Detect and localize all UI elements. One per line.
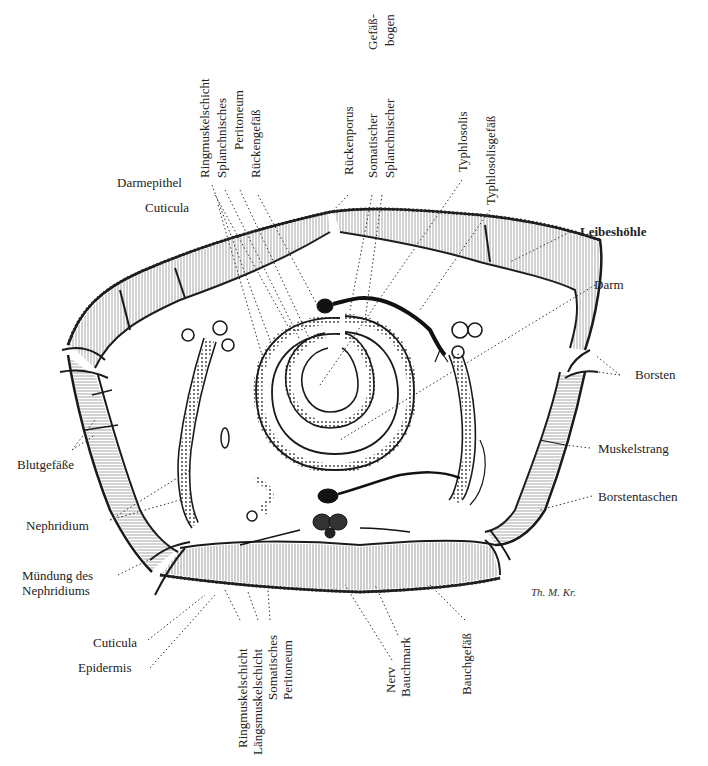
label-ringmuskelschicht-bottom: Ringmuskelschicht: [236, 648, 250, 748]
nephridia-right: [449, 322, 485, 505]
label-rueckenporus: Rückenporus: [342, 106, 356, 175]
label-typhlosolis: Typhlosolis: [456, 112, 470, 173]
artist-signature: Th. M. Kr.: [531, 586, 576, 598]
label-rueckengefaess: Rückengefäß: [249, 109, 263, 178]
label-somatischer: Somatischer: [366, 114, 380, 178]
label-bauchgefaess: Bauchgefäß: [460, 633, 474, 695]
earthworm-cross-section-figure: Ringmuskelschicht Splanchnisches Periton…: [0, 0, 708, 766]
label-borsten: Borsten: [635, 368, 675, 382]
label-muskelstrang: Muskelstrang: [598, 442, 669, 456]
label-darmepithel: Darmepithel: [117, 176, 182, 190]
label-laengsmuskelschicht: Längsmuskelschicht: [251, 649, 265, 755]
label-splanchnischer: Splanchnischer: [383, 99, 397, 178]
label-blutgefaesse: Blutgefäße: [17, 458, 74, 472]
label-ringmuskelschicht-top: Ringmuskelschicht: [198, 78, 212, 178]
label-epidermis: Epidermis: [78, 661, 131, 675]
label-nerv: Nerv: [384, 667, 398, 693]
label-muendung-line2: Nephridiums: [22, 584, 90, 598]
label-borstentaschen: Borstentaschen: [598, 490, 677, 504]
label-splanchnisches: Splanchnisches: [215, 98, 229, 178]
label-nephridium: Nephridium: [26, 519, 89, 533]
label-cuticula-top: Cuticula: [145, 201, 189, 215]
label-somatisches: Somatisches: [266, 635, 280, 700]
intestine: [256, 316, 414, 470]
label-gefaessbogen-line2: bogen: [383, 14, 397, 46]
label-cuticula-bottom: Cuticula: [93, 636, 137, 650]
label-typhlosolisgefaess: Typhlosolisgefäß: [484, 116, 498, 205]
label-darm: Darm: [594, 278, 624, 292]
nephridia-left: [178, 321, 271, 528]
label-leibeshoehle: Leibeshöhle: [580, 225, 646, 239]
label-peritoneum-top: Peritoneum: [232, 90, 246, 150]
label-bauchmark: Bauchmark: [399, 637, 413, 697]
label-gefaessbogen-line1: Gefäß-: [366, 14, 380, 50]
label-muendung-line1: Mündung des: [22, 569, 93, 583]
label-peritoneum-bottom: Peritoneum: [281, 640, 295, 700]
ventral-nerve-cord: [240, 472, 460, 545]
